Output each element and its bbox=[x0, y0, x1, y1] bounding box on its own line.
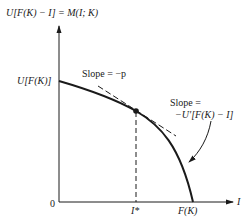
tangency-point bbox=[133, 108, 139, 114]
x-axis-label: I bbox=[237, 197, 240, 207]
annotation-arrow bbox=[189, 121, 211, 162]
y-axis-label: U[F(K) − I] = M(I; K) bbox=[6, 8, 98, 18]
slope-label-curve-line2: −U′[F(K) − I] bbox=[175, 110, 233, 120]
slope-label-curve-line1: Slope = bbox=[170, 98, 201, 108]
y-intercept-label: U[F(K)] bbox=[17, 76, 51, 86]
optimum-label: I* bbox=[131, 206, 139, 216]
slope-label-top: Slope = −p bbox=[82, 69, 126, 79]
origin-label: 0 bbox=[50, 199, 55, 209]
x-intercept-label: F(K) bbox=[178, 206, 197, 216]
